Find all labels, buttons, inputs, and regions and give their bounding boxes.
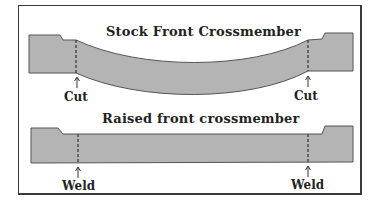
- raised-crossmember-shape: [31, 126, 353, 178]
- raised-title: Raised front crossmember: [102, 111, 300, 126]
- weld-label-left: Weld: [62, 179, 95, 193]
- stock-title: Stock Front Crossmember: [106, 24, 301, 39]
- stock-crossmember-shape: [29, 33, 353, 95]
- cut-label-right: Cut: [294, 89, 318, 103]
- cut-label-left: Cut: [64, 90, 88, 104]
- weld-label-right: Weld: [291, 178, 324, 192]
